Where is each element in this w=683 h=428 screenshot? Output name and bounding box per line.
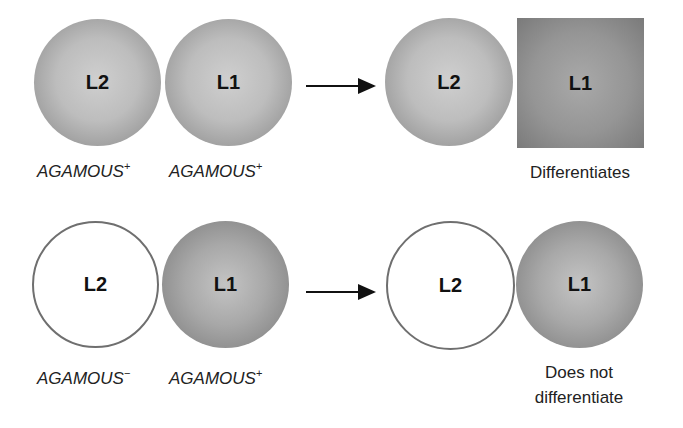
outcome-text-line1: Does not: [509, 360, 649, 385]
cell-label: L2: [437, 71, 460, 94]
gene-name: AGAMOUS: [169, 162, 256, 181]
gene-name: AGAMOUS: [37, 369, 124, 388]
row2-l1-genotype: AGAMOUS+: [169, 367, 262, 389]
gene-sign: +: [256, 160, 262, 172]
gene-name: AGAMOUS: [37, 162, 124, 181]
gene-sign: −: [124, 367, 130, 379]
row1-l2-genotype: AGAMOUS+: [37, 160, 130, 182]
arrow-right-icon: [306, 291, 374, 293]
row1-outcome: Differentiates: [510, 160, 650, 185]
row1-after-l2-cell: L2: [385, 18, 513, 146]
row2-before-l1-cell: L1: [162, 221, 289, 348]
row2-l2-genotype: AGAMOUS−: [37, 367, 130, 389]
row2-after-l2-cell: L2: [386, 221, 515, 350]
gene-name: AGAMOUS: [169, 369, 256, 388]
gene-sign: +: [256, 367, 262, 379]
row2-after-l1-cell: L1: [516, 221, 643, 348]
cell-label: L2: [84, 273, 107, 296]
cell-label: L1: [214, 273, 237, 296]
cell-label: L1: [217, 71, 240, 94]
row1-before-l1-cell: L1: [165, 19, 292, 146]
row2-before-l2-cell: L2: [32, 221, 159, 348]
cell-label: L2: [86, 71, 109, 94]
row2-outcome: Does not differentiate: [509, 360, 649, 410]
arrow-right-icon: [306, 85, 374, 87]
row1-before-l2-cell: L2: [34, 19, 161, 146]
gene-sign: +: [124, 160, 130, 172]
outcome-text-line2: differentiate: [509, 385, 649, 410]
row1-after-l1-cell-differentiated: L1: [517, 18, 644, 148]
row1-l1-genotype: AGAMOUS+: [169, 160, 262, 182]
outcome-text: Differentiates: [510, 160, 650, 185]
cell-label: L1: [569, 72, 592, 95]
cell-label: L1: [568, 273, 591, 296]
cell-label: L2: [439, 274, 462, 297]
